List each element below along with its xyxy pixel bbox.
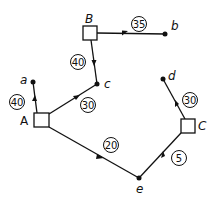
source-label-C: C bbox=[198, 119, 207, 133]
weight-label-C-d: 30 bbox=[184, 95, 197, 106]
sink-label-b: b bbox=[171, 19, 179, 33]
arrow-icon bbox=[73, 95, 80, 100]
arrow-icon bbox=[92, 60, 97, 66]
source-node-C bbox=[181, 119, 195, 133]
weight-label-B-b: 35 bbox=[133, 19, 146, 30]
edge-B-b bbox=[97, 33, 165, 34]
weight-label-A-c: 30 bbox=[82, 100, 95, 111]
sink-dot-d bbox=[161, 77, 166, 82]
weight-label-C-e: 5 bbox=[176, 153, 182, 164]
sink-dot-b bbox=[163, 32, 168, 37]
weight-label-B-c: 40 bbox=[72, 57, 85, 68]
weight-label-A-e: 20 bbox=[105, 140, 118, 151]
sink-label-d: d bbox=[168, 69, 176, 83]
sink-label-c: c bbox=[104, 77, 111, 91]
source-label-B: B bbox=[85, 12, 93, 26]
sink-dot-a bbox=[31, 80, 36, 85]
source-label-A: A bbox=[20, 114, 29, 128]
source-node-A bbox=[34, 113, 49, 127]
sink-label-a: a bbox=[20, 73, 27, 87]
edge-A-e bbox=[49, 127, 139, 178]
sink-dot-c bbox=[95, 82, 100, 87]
sink-dot-e bbox=[137, 176, 142, 181]
source-node-B bbox=[83, 26, 97, 40]
arrow-icon bbox=[96, 154, 104, 159]
edge-C-d bbox=[163, 79, 185, 119]
weight-label-A-a: 40 bbox=[11, 97, 24, 108]
transport-network-diagram: 35 40 40 30 20 30 5 B A C a b c d e bbox=[0, 0, 216, 200]
sink-label-e: e bbox=[136, 182, 143, 196]
